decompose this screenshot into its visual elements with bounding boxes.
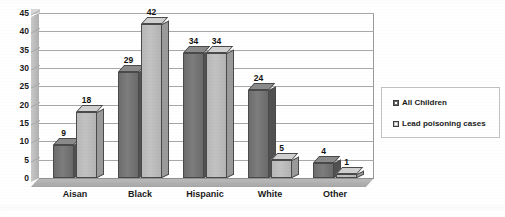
legend-item-label: All Children: [402, 98, 447, 107]
y-axis-tick-label: 40: [7, 27, 29, 36]
legend-item-lead-poisoning-cases: Lead poisoning cases: [393, 119, 486, 128]
bar-value-label: 5: [279, 144, 284, 153]
bar-lead-poisoning-black: 42: [141, 24, 162, 178]
chart-legend: All Children Lead poisoning cases: [381, 87, 500, 138]
y-axis-tick-label: 45: [7, 9, 29, 18]
bar-value-label: 34: [189, 37, 198, 46]
bar-lead-poisoning-hispanic: 34: [206, 53, 227, 178]
y-axis-tick-label: 5: [7, 155, 29, 164]
legend-swatch-icon: [393, 100, 399, 106]
y-axis-tick-labels: 0 5 10 15 20 25 30 35 40 45: [5, 0, 29, 217]
plot-area: 9 18 29 42 34 34: [39, 13, 374, 178]
legend-swatch-icon: [393, 121, 399, 127]
bar-lead-poisoning-aisan: 18: [76, 112, 97, 178]
y-axis-tick-label: 0: [7, 174, 29, 183]
y-axis-tick-label: 25: [7, 82, 29, 91]
plot-floor: [31, 178, 374, 187]
y-axis-tick-label: 10: [7, 137, 29, 146]
y-axis-tick-label: 30: [7, 64, 29, 73]
bar-all-children-aisan: 9: [53, 145, 74, 178]
chart-plot-wrapper: 0 5 10 15 20 25 30 35 40 45: [0, 0, 505, 217]
x-axis-baseline: [39, 178, 374, 179]
bar-value-label: 18: [82, 96, 91, 105]
legend-item-label: Lead poisoning cases: [402, 119, 486, 128]
x-axis-category-label-aisan: Aisan: [39, 189, 111, 199]
gridline: [39, 31, 374, 32]
gridline: [39, 13, 374, 14]
bar-all-children-other: 4: [313, 163, 334, 178]
bar-value-label: 42: [147, 8, 156, 17]
x-axis-category-label-black: Black: [104, 189, 176, 199]
bar-value-label: 4: [321, 147, 326, 156]
bar-all-children-hispanic: 34: [183, 53, 204, 178]
legend-item-all-children: All Children: [393, 98, 447, 107]
bar-all-children-black: 29: [118, 72, 139, 178]
bar-lead-poisoning-white: 5: [271, 160, 292, 178]
y-axis-tick-label: 20: [7, 100, 29, 109]
bar-all-children-white: 24: [248, 90, 269, 178]
bar-value-label: 9: [61, 129, 66, 138]
x-axis-category-label-hispanic: Hispanic: [169, 189, 241, 199]
x-axis-category-label-other: Other: [299, 189, 371, 199]
y-axis-tick-label: 15: [7, 119, 29, 128]
bar-value-label: 29: [124, 56, 133, 65]
scan-artifact: [0, 0, 505, 4]
chart-figure: 0 5 10 15 20 25 30 35 40 45: [0, 0, 505, 217]
bar-value-label: 1: [344, 158, 349, 167]
bar-lead-poisoning-other: 1: [336, 174, 357, 178]
y-axis-tick-label: 35: [7, 45, 29, 54]
bar-value-label: 24: [254, 74, 263, 83]
scan-artifact: [0, 205, 505, 210]
bar-value-label: 34: [212, 37, 221, 46]
x-axis-category-label-white: White: [234, 189, 306, 199]
